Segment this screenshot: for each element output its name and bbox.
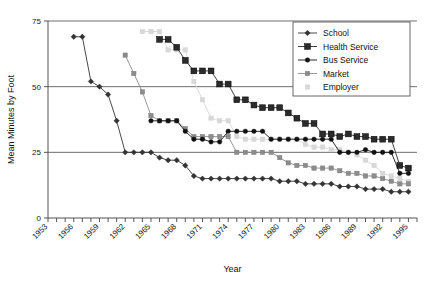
data-point (311, 121, 317, 127)
data-point (320, 166, 324, 170)
legend-label-health-service: Health Service (323, 42, 379, 52)
y-tick-label-25: 25 (32, 148, 41, 157)
data-point (371, 136, 377, 142)
data-point (312, 137, 317, 142)
data-point (337, 134, 343, 140)
data-point (217, 134, 221, 138)
data-point (192, 79, 196, 83)
data-point (329, 148, 333, 152)
data-point (200, 137, 205, 142)
data-point (380, 150, 385, 155)
data-point (226, 134, 230, 138)
data-point (149, 119, 154, 124)
data-point (406, 171, 411, 176)
x-tick-label-1989: 1989 (339, 222, 358, 241)
data-point (388, 136, 394, 142)
data-point (251, 102, 257, 108)
data-point (200, 98, 204, 102)
x-axis-title: Year (223, 264, 241, 274)
legend-marker-2 (305, 58, 310, 63)
data-point (260, 129, 265, 134)
data-point (217, 81, 223, 87)
data-point (123, 53, 127, 57)
data-point (320, 137, 325, 142)
data-point (406, 182, 410, 186)
data-point (243, 137, 247, 141)
data-point (234, 129, 239, 134)
data-point (380, 171, 384, 175)
data-point (132, 71, 136, 75)
data-point (338, 169, 342, 173)
data-point (329, 137, 334, 142)
x-tick-label-1974: 1974 (211, 222, 230, 241)
data-point (235, 134, 239, 138)
data-point (380, 136, 386, 142)
data-point (149, 113, 153, 117)
data-point (329, 166, 333, 170)
data-point (406, 165, 412, 171)
data-point (354, 134, 360, 140)
data-point (380, 176, 384, 180)
data-point (260, 105, 266, 111)
data-point (174, 119, 179, 124)
data-point (285, 110, 291, 116)
data-point (286, 137, 291, 142)
data-point (166, 119, 171, 124)
data-point (277, 105, 283, 111)
data-point (243, 129, 248, 134)
data-point (303, 121, 309, 127)
x-tick-label-1956: 1956 (56, 222, 75, 241)
data-point (328, 131, 334, 137)
data-point (355, 171, 359, 175)
data-point (372, 150, 377, 155)
data-point (277, 155, 281, 159)
data-point (320, 145, 324, 149)
data-point (268, 105, 274, 111)
data-point (337, 150, 342, 155)
legend-label-market: Market (323, 69, 350, 79)
data-point (320, 131, 326, 137)
data-point (303, 137, 308, 142)
data-point (398, 182, 402, 186)
data-point (389, 174, 393, 178)
data-point (243, 150, 247, 154)
data-point (217, 140, 222, 145)
data-point (183, 48, 187, 52)
data-point (174, 44, 180, 50)
y-axis-title: Mean Minutes by Foot (6, 74, 16, 164)
data-point (312, 145, 316, 149)
data-point (182, 58, 188, 64)
data-point (312, 166, 316, 170)
data-point (269, 150, 273, 154)
x-tick-label-1953: 1953 (30, 222, 49, 241)
data-point (226, 119, 230, 123)
data-point (345, 131, 351, 137)
chart-root: 0255075195319561959196219651968197119741… (0, 0, 426, 283)
x-tick-label-1980: 1980 (262, 222, 281, 241)
data-point (252, 150, 256, 154)
x-tick-label-1983: 1983 (288, 222, 307, 241)
data-point (157, 29, 161, 33)
x-tick-label-1971: 1971 (185, 222, 204, 241)
x-tick-label-1986: 1986 (314, 222, 333, 241)
x-tick-label-1962: 1962 (108, 222, 127, 241)
data-point (355, 150, 360, 155)
data-point (208, 68, 214, 74)
data-point (294, 115, 300, 121)
line-chart: 0255075195319561959196219651968197119741… (0, 0, 426, 283)
data-point (389, 179, 393, 183)
legend-label-bus-service: Bus Service (323, 55, 369, 65)
data-point (191, 68, 197, 74)
x-tick-label-1992: 1992 (365, 222, 384, 241)
data-point (209, 134, 213, 138)
x-tick-label-1968: 1968 (159, 222, 178, 241)
data-point (295, 137, 300, 142)
x-tick-label-1977: 1977 (236, 222, 255, 241)
data-point (165, 36, 171, 42)
data-point (200, 68, 206, 74)
data-point (157, 119, 162, 124)
x-tick-label-1959: 1959 (82, 222, 101, 241)
data-point (140, 29, 144, 33)
data-point (226, 129, 231, 134)
data-point (346, 150, 351, 155)
